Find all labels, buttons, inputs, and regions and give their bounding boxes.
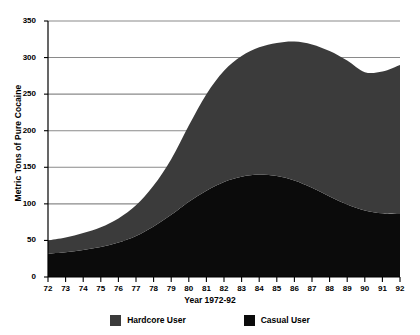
legend-item-hardcore-user: Hardcore User (110, 315, 186, 326)
x-tick-label: 88 (322, 285, 338, 293)
x-tick-label: 85 (269, 285, 285, 293)
x-tick-label: 83 (234, 285, 250, 293)
chart-legend: Hardcore User Casual User (0, 312, 420, 328)
legend-label-hardcore-user: Hardcore User (127, 316, 186, 325)
x-tick-label: 86 (286, 285, 302, 293)
area-series-group (48, 41, 400, 277)
x-tick-label: 90 (357, 285, 373, 293)
x-tick-label: 75 (93, 285, 109, 293)
x-tick-label: 78 (146, 285, 162, 293)
x-tick-label: 79 (163, 285, 179, 293)
area-chart: 050100150200250300350 727374757677787980… (0, 0, 420, 335)
y-axis-title: Metric Tons of Pure Cocaine (13, 43, 23, 243)
x-tick-label: 72 (40, 285, 56, 293)
x-tick-label: 77 (128, 285, 144, 293)
legend-swatch-casual-user (244, 315, 255, 326)
x-axis-title: Year 1972-92 (0, 295, 420, 305)
y-tick-label: 350 (8, 17, 36, 25)
x-tick-label: 73 (58, 285, 74, 293)
y-tick-label: 0 (8, 273, 36, 281)
legend-label-casual-user: Casual User (261, 316, 310, 325)
x-axis-ticks (48, 277, 400, 282)
x-tick-label: 76 (110, 285, 126, 293)
legend-swatch-hardcore-user (110, 315, 121, 326)
x-tick-label: 74 (75, 285, 91, 293)
x-tick-label: 80 (181, 285, 197, 293)
legend-item-casual-user: Casual User (244, 315, 310, 326)
x-tick-label: 84 (251, 285, 267, 293)
x-tick-label: 82 (216, 285, 232, 293)
x-tick-label: 91 (374, 285, 390, 293)
x-tick-label: 92 (392, 285, 408, 293)
x-tick-label: 87 (304, 285, 320, 293)
x-tick-label: 89 (339, 285, 355, 293)
x-tick-label: 81 (198, 285, 214, 293)
